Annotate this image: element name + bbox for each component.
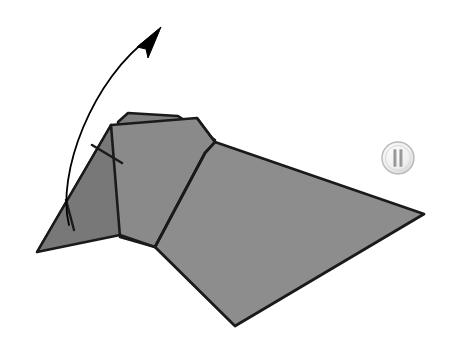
diagram-root: Origami fold step diagram Shaded paper m…: [0, 0, 454, 343]
step-marker-background: [382, 142, 414, 174]
step-marker[interactable]: [382, 142, 414, 174]
origami-illustration: [0, 0, 454, 343]
pause-icon-bar-left: [393, 149, 397, 167]
pause-icon-bar-right: [399, 149, 403, 167]
